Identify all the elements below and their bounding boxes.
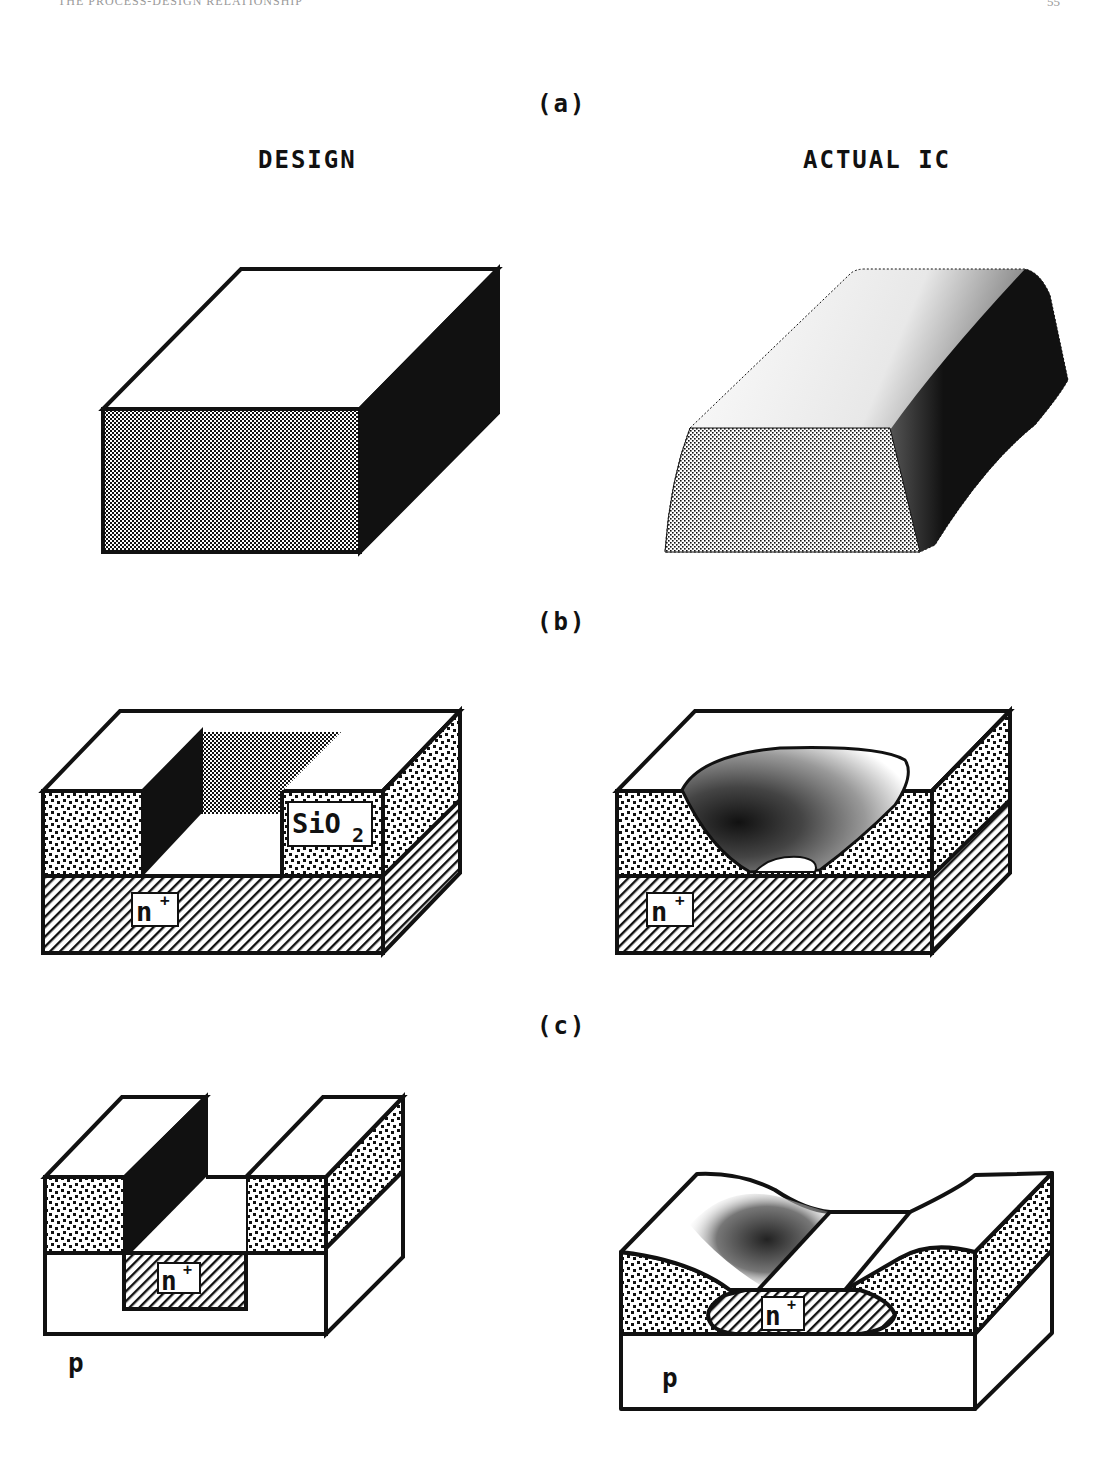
design-block-b [43,711,460,953]
svg-text:n: n [161,1266,177,1296]
label-n-plus-b-design: n + [132,891,178,927]
label-p-design: p [68,1348,84,1378]
figure-canvas: SiO 2 n + n + n + p [0,0,1114,1464]
svg-text:+: + [675,891,685,910]
svg-text:+: + [787,1296,796,1314]
actual-block-c [621,1170,1052,1409]
svg-text:+: + [160,891,170,910]
svg-text:SiO: SiO [292,808,341,839]
actual-block-a [665,269,1068,552]
label-p-actual: p [662,1363,678,1393]
svg-text:2: 2 [352,823,364,847]
label-n-plus-b-actual: n + [647,891,693,927]
design-block-c [45,1097,403,1334]
label-sio2: SiO 2 [288,802,372,847]
label-n-plus-c-actual: n + [762,1296,804,1331]
svg-text:n: n [651,896,667,927]
design-block-a [103,269,498,552]
label-n-plus-c-design: n + [158,1261,200,1296]
svg-text:+: + [183,1261,192,1279]
svg-text:n: n [765,1301,781,1331]
svg-text:n: n [136,896,152,927]
